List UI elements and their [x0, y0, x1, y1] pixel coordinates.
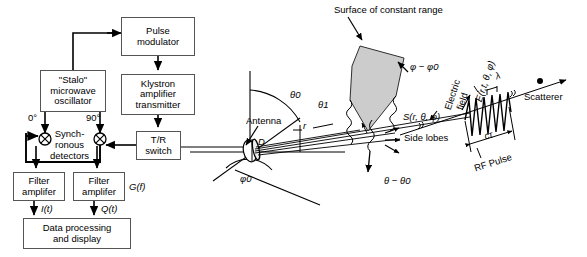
label-scatterer: Scatterer — [524, 92, 563, 103]
pulse-modulator-line1: Pulse — [146, 25, 170, 36]
sync-det-line1: Synch- — [50, 128, 89, 139]
filter-amp-q-line1: Filter — [88, 175, 109, 186]
label-pattern-function: S(r, θ, φ) — [403, 112, 440, 123]
label-theta-minus-theta0: θ − θ0 — [384, 176, 410, 187]
stalo-line2: microwave — [50, 85, 95, 96]
label-synchronous-detectors: Synch- ronous detectors — [50, 128, 89, 161]
label-phi-0: φ0 — [240, 174, 251, 185]
label-aperture-D: D — [258, 137, 265, 148]
label-antenna: Antenna — [246, 116, 281, 127]
filter-amp-q-line2: amplifer — [82, 186, 116, 197]
label-theta-1: θ1 — [318, 100, 328, 111]
label-theta-0: θ0 — [290, 90, 300, 101]
label-surface-of-constant-range: Surface of constant range — [334, 5, 443, 16]
surface-of-constant-range-patch — [350, 46, 404, 131]
block-data-processing-and-display[interactable]: Data processing and display — [23, 218, 131, 249]
tr-switch-line2: switch — [145, 145, 171, 156]
label-q-signal: Q(t) — [101, 204, 117, 215]
stalo-line1: "Stalo" — [59, 74, 87, 85]
label-i-signal: I(t) — [41, 204, 53, 215]
klystron-line1: Klystron — [141, 78, 175, 89]
connector-stalo-to-pulse-modulator — [73, 33, 116, 70]
label-range-r: r — [303, 121, 306, 132]
arrow-theta-minus-theta0 — [368, 151, 370, 172]
block-filter-amplifier-i[interactable]: Filter amplifer — [13, 172, 65, 201]
surface-wiggle-left — [347, 100, 353, 144]
label-side-lobes: Side lobes — [404, 133, 448, 144]
data-processing-line2: and display — [53, 233, 101, 244]
arrow-to-surface — [348, 17, 362, 40]
klystron-line2: amplifier — [140, 88, 176, 99]
scatterer-point — [537, 78, 543, 84]
filter-amp-i-line2: amplifer — [22, 186, 56, 197]
data-processing-line1: Data processing — [43, 222, 112, 233]
label-phase-90: 90° — [86, 113, 100, 124]
pulse-modulator-line2: modulator — [137, 36, 179, 47]
label-phi-minus-phi0: φ − φ0 — [410, 62, 439, 73]
block-tr-switch[interactable]: T/R switch — [136, 131, 181, 160]
stalo-line3: oscillator — [54, 95, 92, 106]
block-filter-amplifier-q[interactable]: Filter amplifer — [73, 172, 125, 201]
block-stalo-microwave-oscillator[interactable]: "Stalo" microwave oscillator — [40, 70, 106, 112]
filter-amp-i-line1: Filter — [28, 175, 49, 186]
tr-switch-line1: T/R — [151, 134, 166, 145]
label-phase-0: 0° — [28, 113, 37, 124]
klystron-line3: transmitter — [136, 99, 181, 110]
radar-figure: Pulse modulator Klystron amplifier trans… — [0, 0, 587, 257]
leader-rf-pulse — [477, 148, 481, 158]
sync-det-line3: detectors — [50, 150, 89, 161]
block-pulse-modulator[interactable]: Pulse modulator — [121, 17, 195, 56]
sync-det-line2: ronous — [50, 139, 89, 150]
side-lobe-arrows — [385, 128, 400, 153]
mixer-q — [94, 133, 106, 145]
block-klystron-amplifier-transmitter[interactable]: Klystron amplifier transmitter — [121, 74, 195, 115]
label-transfer-function: G(f) — [129, 182, 145, 193]
